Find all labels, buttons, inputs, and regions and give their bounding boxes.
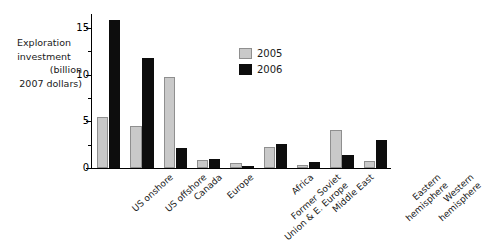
bar-2006-eastern-hemisphere bbox=[342, 155, 354, 168]
legend-item-2006: 2006 bbox=[239, 62, 282, 76]
x-axis-line bbox=[91, 168, 391, 169]
y-tick-minor bbox=[88, 51, 91, 52]
y-axis-title-line-2: investment bbox=[6, 50, 82, 64]
y-tick-label-5: 5 bbox=[49, 116, 89, 126]
legend-label-2005: 2005 bbox=[257, 48, 282, 59]
bar-2006-us-onshore bbox=[109, 20, 121, 168]
y-axis-line bbox=[91, 14, 92, 168]
y-tick-label-15: 15 bbox=[49, 23, 89, 33]
bar-2005-eastern-hemisphere bbox=[330, 130, 342, 168]
bar-2006-former-soviet-union-e-europe bbox=[242, 166, 254, 168]
bar-2005-us-offshore bbox=[130, 126, 142, 168]
y-tick-label-0: 0 bbox=[49, 163, 89, 173]
x-label-europe: Europe bbox=[225, 172, 256, 201]
bar-2006-middle-east bbox=[309, 162, 321, 168]
bar-2006-western-hemisphere bbox=[376, 140, 388, 168]
bar-2005-us-onshore bbox=[97, 117, 109, 168]
bar-2005-former-soviet-union-e-europe bbox=[230, 163, 242, 168]
bar-2005-middle-east bbox=[297, 165, 309, 168]
gray-swatch-icon bbox=[239, 48, 252, 59]
legend-item-2005: 2005 bbox=[239, 46, 282, 60]
legend-label-2006: 2006 bbox=[257, 64, 282, 75]
bar-2005-western-hemisphere bbox=[364, 161, 376, 168]
bar-2006-europe bbox=[209, 159, 221, 168]
bar-2005-africa bbox=[264, 147, 276, 168]
black-swatch-icon bbox=[239, 64, 252, 75]
bar-2006-africa bbox=[276, 144, 288, 168]
bar-2006-us-offshore bbox=[142, 58, 154, 168]
bar-2005-europe bbox=[197, 160, 209, 168]
y-tick-label-10: 10 bbox=[49, 70, 89, 80]
y-tick-minor bbox=[88, 145, 91, 146]
y-axis-title-line-1: Exploration bbox=[6, 36, 82, 50]
chart-legend: 2005 2006 bbox=[239, 46, 282, 78]
bar-2005-canada bbox=[164, 77, 176, 168]
plot-area: 051015 US onshoreUS offshoreCanadaEurope… bbox=[91, 14, 391, 168]
y-axis-title: Exploration investment (billion 2007 dol… bbox=[6, 36, 82, 90]
y-tick-minor bbox=[88, 98, 91, 99]
bar-2006-canada bbox=[176, 148, 188, 168]
